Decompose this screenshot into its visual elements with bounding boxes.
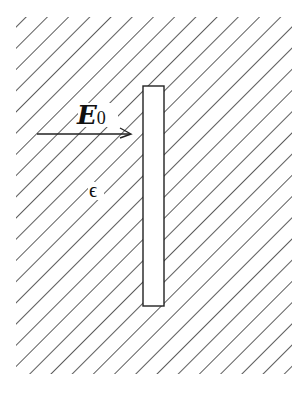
diagram-canvas: E0 ϵ	[0, 0, 308, 398]
field-label-main: E	[76, 100, 98, 130]
slab	[143, 86, 164, 306]
permittivity-label: ϵ	[89, 179, 97, 201]
field-label-subscript: 0	[97, 108, 106, 128]
